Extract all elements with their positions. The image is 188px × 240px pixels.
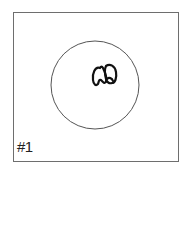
panel-number-label: #1 [17,138,33,155]
two-loops-doodle-icon [93,65,116,85]
